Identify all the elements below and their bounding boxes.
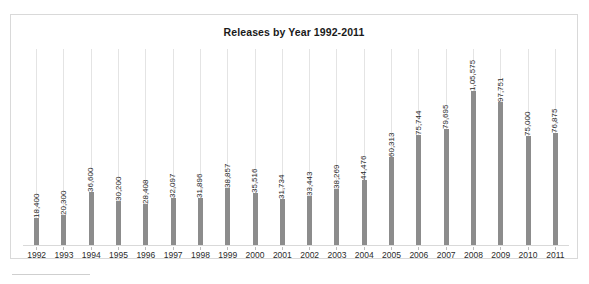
bar[interactable] <box>280 199 285 245</box>
bar-column: 36,600 <box>77 49 105 245</box>
bar-column: 75,744 <box>405 49 433 245</box>
x-axis-line <box>23 245 569 246</box>
bar-value-label: 60,313 <box>387 87 397 157</box>
bar-value-label: 75,744 <box>414 65 424 135</box>
bar[interactable] <box>526 136 531 245</box>
bar-column: 79,695 <box>432 49 460 245</box>
bar-value-label: 1,05,575 <box>468 21 478 91</box>
bar-value-label: 97,751 <box>496 32 506 102</box>
bar[interactable] <box>34 218 39 245</box>
bar[interactable] <box>225 188 230 245</box>
bar-value-label: 38,857 <box>223 118 233 188</box>
bar[interactable] <box>171 198 176 245</box>
bar-column: 38,857 <box>214 49 242 245</box>
bar-column: 31,734 <box>268 49 296 245</box>
bar-value-label: 18,400 <box>32 148 42 218</box>
bar-column: 35,516 <box>241 49 269 245</box>
bar[interactable] <box>116 201 121 245</box>
bar[interactable] <box>307 196 312 245</box>
chart-title: Releases by Year 1992-2011 <box>11 26 577 38</box>
bar-value-label: 30,200 <box>114 131 124 201</box>
bar-column: 1,05,575 <box>459 49 487 245</box>
bar[interactable] <box>61 215 66 245</box>
bar-column: 60,313 <box>378 49 406 245</box>
bar[interactable] <box>416 135 421 245</box>
bar-value-label: 33,443 <box>305 126 315 196</box>
bar-column: 18,400 <box>23 49 51 245</box>
plot-area: 18,40020,30036,60030,20028,40832,09731,8… <box>23 49 569 245</box>
bar-value-label: 20,300 <box>59 145 69 215</box>
bar-value-label: 28,408 <box>141 134 151 204</box>
bar[interactable] <box>498 102 503 245</box>
bar-value-label: 31,896 <box>195 128 205 198</box>
bar-value-label: 44,476 <box>359 110 369 180</box>
bar-value-label: 36,600 <box>86 122 96 192</box>
bar-column: 44,476 <box>350 49 378 245</box>
bar[interactable] <box>143 204 148 245</box>
x-axis: 1992199319941995199619971998199920002001… <box>23 247 569 261</box>
bar-value-label: 76,875 <box>550 63 560 133</box>
bar[interactable] <box>471 91 476 245</box>
bar[interactable] <box>362 180 367 245</box>
bar-column: 33,443 <box>296 49 324 245</box>
bar-value-label: 35,516 <box>250 123 260 193</box>
x-axis-tick-group: 2011 <box>541 247 569 261</box>
bar-value-label: 32,097 <box>168 128 178 198</box>
bar[interactable] <box>89 192 94 245</box>
bar-value-label: 31,734 <box>277 129 287 199</box>
x-axis-label: 2011 <box>535 250 575 260</box>
bar-column: 97,751 <box>487 49 515 245</box>
bar[interactable] <box>334 189 339 245</box>
bar-value-label: 75,000 <box>523 66 533 136</box>
bar[interactable] <box>444 129 449 245</box>
bar-value-label: 38,269 <box>332 119 342 189</box>
bar-column: 28,408 <box>132 49 160 245</box>
bar[interactable] <box>553 133 558 245</box>
bar-column: 30,200 <box>105 49 133 245</box>
bar-column: 32,097 <box>159 49 187 245</box>
bar-value-label: 79,695 <box>441 59 451 129</box>
bar-column: 75,000 <box>514 49 542 245</box>
bar-column: 31,896 <box>186 49 214 245</box>
bar-column: 20,300 <box>50 49 78 245</box>
bottom-divider <box>12 274 90 275</box>
bar-column: 38,269 <box>323 49 351 245</box>
chart-frame: Releases by Year 1992-2011 18,40020,3003… <box>10 14 578 259</box>
bar-column: 76,875 <box>541 49 569 245</box>
bar[interactable] <box>198 198 203 245</box>
bar[interactable] <box>389 157 394 245</box>
bar[interactable] <box>253 193 258 245</box>
